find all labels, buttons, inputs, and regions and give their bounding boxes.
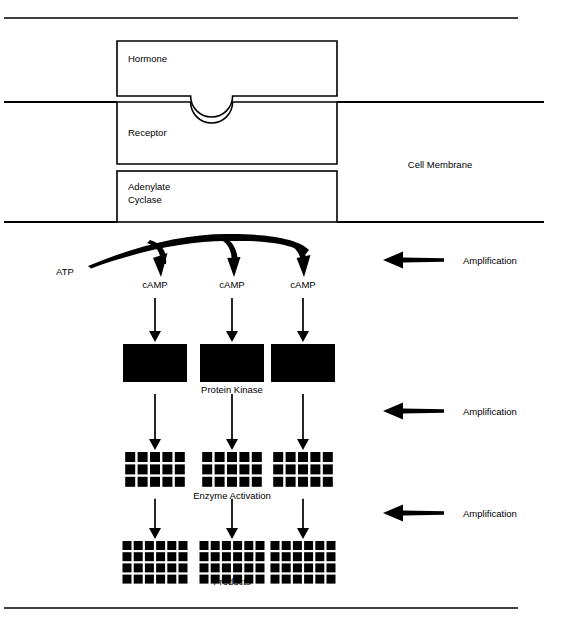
products-grid-2-cell	[233, 552, 242, 561]
camp-label-3: cAMP	[290, 279, 315, 290]
enzyme-activation-grid-1-cell	[138, 452, 148, 462]
products-grid-2-cell	[233, 541, 242, 550]
enzyme-activation-grid-3-cell	[323, 452, 333, 462]
enzyme-activation-grid-2-cell	[202, 464, 212, 474]
enzyme-activation-grid-1-cell	[150, 464, 160, 474]
signal-transduction-diagram: Cell Membrane Hormone Receptor Adenylate…	[0, 0, 570, 633]
enzyme-activation-grid-2-cell	[215, 452, 225, 462]
products-grid-3-cell	[315, 541, 324, 550]
atp-curved-arrows	[88, 234, 311, 277]
enzyme-activation-grid-1-cell	[175, 464, 185, 474]
products-grid-2-cell	[200, 552, 209, 561]
enzyme-activation-grid-3-cell	[298, 452, 308, 462]
enzyme-activation-grid-3-cell	[323, 464, 333, 474]
amplification-label-2: Amplification	[463, 406, 517, 417]
products-grid-3-cell	[327, 541, 336, 550]
protein-kinase-blocks	[123, 344, 335, 382]
products-grid-3-cell	[282, 575, 291, 584]
arrow-camp-to-kinase-3-head	[297, 331, 309, 342]
diagram-canvas: Cell Membrane Hormone Receptor Adenylate…	[0, 0, 570, 633]
products-grid-2-cell	[211, 563, 220, 572]
products-grid-2-cell	[256, 541, 265, 550]
products-grid-2-cell	[244, 541, 253, 550]
arrow-enzyme-to-products-2-head	[226, 528, 238, 539]
adenylate-cyclase-label-line2: Cyclase	[128, 194, 162, 205]
enzyme-activation-grid-3-cell	[298, 464, 308, 474]
enzyme-activation-grid-1-cell	[125, 477, 135, 487]
products-grid-2-cell	[256, 552, 265, 561]
products-grid-3-cell	[304, 563, 313, 572]
enzyme-activation-grid-3-cell	[286, 452, 296, 462]
enzyme-activation-grid-1-cell	[125, 452, 135, 462]
camp-label-1: cAMP	[142, 279, 167, 290]
products-grid-1-cell	[134, 575, 143, 584]
products-grid-1-cell	[179, 563, 188, 572]
enzyme-activation-grid-2-cell	[215, 477, 225, 487]
products-grid-1-cell	[179, 541, 188, 550]
products-grid-1-cell	[167, 541, 176, 550]
products-grid-3-cell	[315, 575, 324, 584]
products-grid-3-cell	[271, 563, 280, 572]
atp-arrowhead-3	[297, 255, 311, 277]
products-grid-3-cell	[304, 552, 313, 561]
enzyme-activation-grid-1-cell	[150, 477, 160, 487]
products-grid-1-cell	[123, 552, 132, 561]
products-grid-2-cell	[211, 541, 220, 550]
enzyme-activation-grid-3-cell	[273, 452, 283, 462]
camp-label-2: cAMP	[219, 279, 244, 290]
enzyme-activation-grid-3-cell	[286, 477, 296, 487]
products-grid-1-cell	[123, 575, 132, 584]
enzyme-activation-grid-3-cell	[298, 477, 308, 487]
enzyme-activation-grid-2-cell	[215, 464, 225, 474]
products-grid-2-cell	[244, 563, 253, 572]
enzyme-activation-grid-1-cell	[175, 477, 185, 487]
products-grid-2-cell	[244, 552, 253, 561]
enzyme-activation-grid-3-cell	[310, 452, 320, 462]
enzyme-activation-grid-3-cell	[286, 464, 296, 474]
products-grid-1-cell	[123, 563, 132, 572]
products-grid-1-cell	[167, 563, 176, 572]
enzyme-activation-grid-2-cell	[252, 477, 262, 487]
amplification-arrow-1	[383, 252, 444, 269]
protein-kinase-block-1	[123, 344, 187, 382]
enzyme-activation-grid-3-cell	[310, 477, 320, 487]
products-grid-3-cell	[293, 575, 302, 584]
enzyme-activation-grid-2-cell	[202, 452, 212, 462]
atp-conversion-group: ATP	[56, 234, 311, 277]
enzyme-activation-grid-1-cell	[138, 464, 148, 474]
arrows-kinase-to-enzyme	[149, 394, 309, 450]
enzyme-activation-grid-1-cell	[150, 452, 160, 462]
products-grid-3-cell	[282, 563, 291, 572]
products-grid-2-cell	[200, 575, 209, 584]
atp-arrowhead-2	[227, 257, 240, 277]
products-grid-1-cell	[167, 552, 176, 561]
camp-label-group: cAMPcAMPcAMP	[142, 279, 315, 290]
products-grid-1-cell	[145, 541, 154, 550]
amplification-label-3: Amplification	[463, 508, 517, 519]
products-grid-2-cell	[233, 563, 242, 572]
enzyme-activation-grid-1-cell	[162, 477, 172, 487]
enzyme-activation-grid-1-cell	[125, 464, 135, 474]
products-grid-1-cell	[145, 575, 154, 584]
arrow-enzyme-to-products-3-head	[297, 528, 309, 539]
products-grid-2-cell	[200, 563, 209, 572]
products-grid-3-cell	[327, 563, 336, 572]
products-grid-1-cell	[134, 563, 143, 572]
products-grid-3-cell	[304, 541, 313, 550]
products-grid-1-cell	[179, 575, 188, 584]
products-grid-1-cell	[156, 541, 165, 550]
amplification-arrow-3	[383, 505, 444, 522]
products-grid-2-cell	[211, 552, 220, 561]
products-grid-3-cell	[293, 541, 302, 550]
amplification-group: AmplificationAmplificationAmplification	[383, 252, 517, 522]
enzyme-activation-grid-3-cell	[273, 464, 283, 474]
arrow-enzyme-to-products-1-head	[149, 528, 161, 539]
products-grid-2-cell	[222, 563, 231, 572]
products-grid-3-cell	[271, 541, 280, 550]
enzyme-activation-grid-2-cell	[239, 464, 249, 474]
enzyme-activation-grid-3-cell	[273, 477, 283, 487]
products-grid-3-cell	[271, 575, 280, 584]
products-grid-3-cell	[327, 552, 336, 561]
products-grid-1-cell	[134, 552, 143, 561]
enzyme-activation-grid-1-cell	[162, 452, 172, 462]
